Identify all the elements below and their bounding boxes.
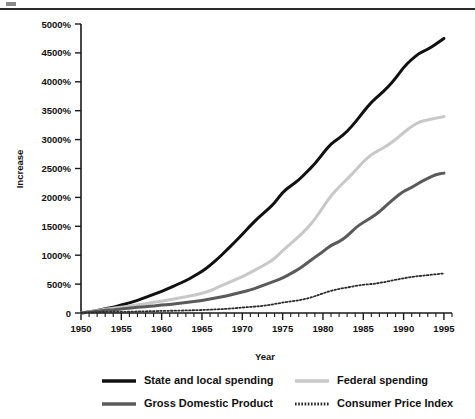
y-tick-label: 0 (66, 308, 71, 319)
y-tick-label: 3000% (41, 134, 71, 145)
series-line-2 (81, 173, 444, 313)
chart-legend: State and local spendingFederal spending… (102, 374, 454, 409)
y-tick-label: 500% (47, 279, 72, 290)
y-tick-label: 1500% (41, 221, 71, 232)
y-tick-label: 3500% (41, 105, 71, 116)
legend-item: Federal spending (295, 374, 428, 386)
legend-label: Federal spending (337, 374, 428, 386)
series-line-0 (81, 38, 444, 313)
y-tick-label: 2000% (41, 192, 71, 203)
line-chart: 0500%1000%1500%2000%2500%3000%3500%4000%… (0, 0, 475, 419)
y-axis-title: Increase (14, 150, 25, 189)
data-series (81, 38, 444, 313)
y-tick-label: 4000% (41, 76, 71, 87)
x-tick-label: 1965 (191, 323, 213, 334)
axis-ticks (75, 24, 452, 320)
x-axis-tick-labels: 1950195519601965197019751980198519901995 (70, 323, 455, 334)
x-tick-label: 1950 (70, 323, 91, 334)
x-tick-label: 1995 (433, 323, 455, 334)
chart-figure: 0500%1000%1500%2000%2500%3000%3500%4000%… (0, 0, 475, 419)
x-tick-label: 1960 (151, 323, 172, 334)
x-axis-title: Year (255, 351, 275, 362)
legend-item: Consumer Price Index (295, 397, 454, 409)
x-tick-label: 1980 (312, 323, 333, 334)
legend-item: Gross Domestic Product (102, 397, 273, 409)
axes (81, 24, 452, 313)
axis-spine (81, 24, 452, 313)
y-tick-label: 5000% (41, 19, 71, 30)
x-tick-label: 1975 (272, 323, 294, 334)
x-tick-label: 1970 (232, 323, 253, 334)
legend-item: State and local spending (102, 374, 274, 386)
y-tick-label: 1000% (41, 250, 71, 261)
legend-label: Gross Domestic Product (144, 397, 273, 409)
y-tick-label: 4500% (41, 47, 71, 58)
x-tick-label: 1990 (393, 323, 414, 334)
x-tick-label: 1955 (111, 323, 133, 334)
y-axis-tick-labels: 0500%1000%1500%2000%2500%3000%3500%4000%… (41, 19, 71, 319)
y-tick-label: 2500% (41, 163, 71, 174)
x-tick-label: 1985 (353, 323, 375, 334)
legend-label: Consumer Price Index (337, 397, 454, 409)
legend-label: State and local spending (144, 374, 274, 386)
